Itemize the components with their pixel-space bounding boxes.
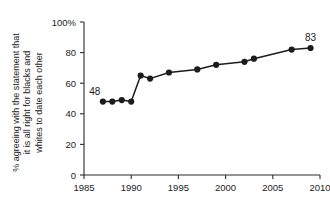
data-point-label: 83 (305, 32, 317, 43)
data-point (289, 46, 295, 52)
data-point (194, 66, 200, 72)
y-tick-label-60: 60 (65, 78, 76, 89)
data-point-annotations: 4883 (89, 32, 316, 97)
data-point (213, 62, 219, 68)
data-point (147, 76, 153, 82)
data-point (241, 59, 247, 65)
y-axis-ticks (80, 22, 84, 175)
data-point (119, 97, 125, 103)
x-tick-label-1990: 1990 (121, 182, 142, 193)
y-tick-label-0: 0 (71, 170, 76, 181)
chart-container: 0 20 40 60 80 100% 1985 1990 1995 2000 2… (0, 0, 330, 205)
data-point-markers (100, 45, 314, 105)
x-tick-label-2010: 2010 (309, 182, 330, 193)
y-tick-label-100: 100% (52, 17, 77, 28)
y-tick-label-80: 80 (65, 47, 76, 58)
data-series-line (103, 48, 311, 102)
data-point-label: 48 (89, 86, 101, 97)
data-point (128, 98, 134, 104)
y-tick-label-20: 20 (65, 139, 76, 150)
x-tick-label-1985: 1985 (73, 182, 94, 193)
data-point (109, 98, 115, 104)
x-axis-tick-labels: 1985 1990 1995 2000 2005 2010 (73, 182, 330, 193)
x-tick-label-1995: 1995 (168, 182, 189, 193)
data-point (307, 45, 313, 51)
x-axis-ticks (84, 175, 320, 179)
data-point (100, 98, 106, 104)
y-axis-tick-labels: 0 20 40 60 80 100% (52, 17, 77, 181)
data-point (138, 72, 144, 78)
x-tick-label-2000: 2000 (215, 182, 236, 193)
line-chart-plot: 0 20 40 60 80 100% 1985 1990 1995 2000 2… (0, 0, 330, 205)
data-point (251, 56, 257, 62)
data-point (166, 69, 172, 75)
x-tick-label-2005: 2005 (262, 182, 283, 193)
y-tick-label-40: 40 (65, 108, 76, 119)
